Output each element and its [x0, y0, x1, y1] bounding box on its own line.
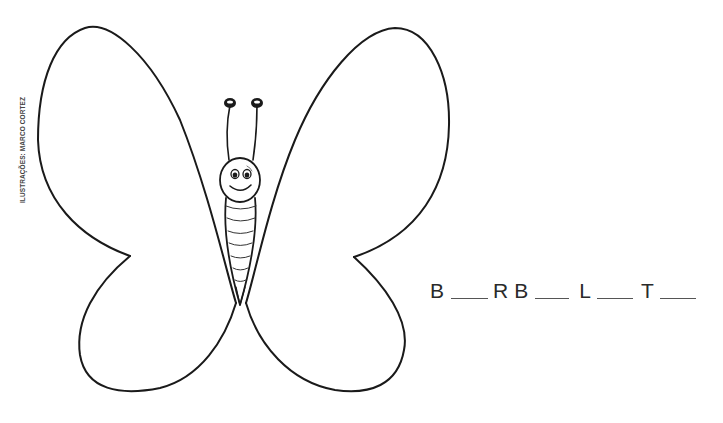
upper-right-wing — [246, 28, 449, 303]
lower-right-wing — [246, 257, 405, 391]
illustration-credit: ILUSTRAÇÕES: MARCO CORTEZ — [19, 97, 26, 203]
body — [225, 198, 255, 305]
puzzle-blank[interactable] — [535, 298, 569, 299]
puzzle-blank[interactable] — [597, 298, 633, 299]
antenna-tips — [224, 98, 263, 108]
butterfly-illustration — [0, 0, 723, 423]
puzzle-blank[interactable] — [451, 298, 488, 299]
lower-left-wing — [79, 256, 236, 391]
body-segments — [226, 206, 256, 282]
puzzle-blank[interactable] — [660, 298, 696, 299]
puzzle-letter: B — [514, 280, 528, 301]
puzzle-letter: R — [493, 280, 508, 301]
puzzle-letter: B — [430, 280, 444, 301]
puzzle-letter: L — [579, 280, 591, 301]
left-antenna — [227, 105, 230, 160]
puzzle-letter: T — [641, 280, 654, 301]
right-antenna — [253, 105, 257, 160]
word-puzzle: B R B L T — [430, 279, 696, 301]
upper-left-wing — [38, 27, 236, 303]
head — [220, 158, 260, 202]
